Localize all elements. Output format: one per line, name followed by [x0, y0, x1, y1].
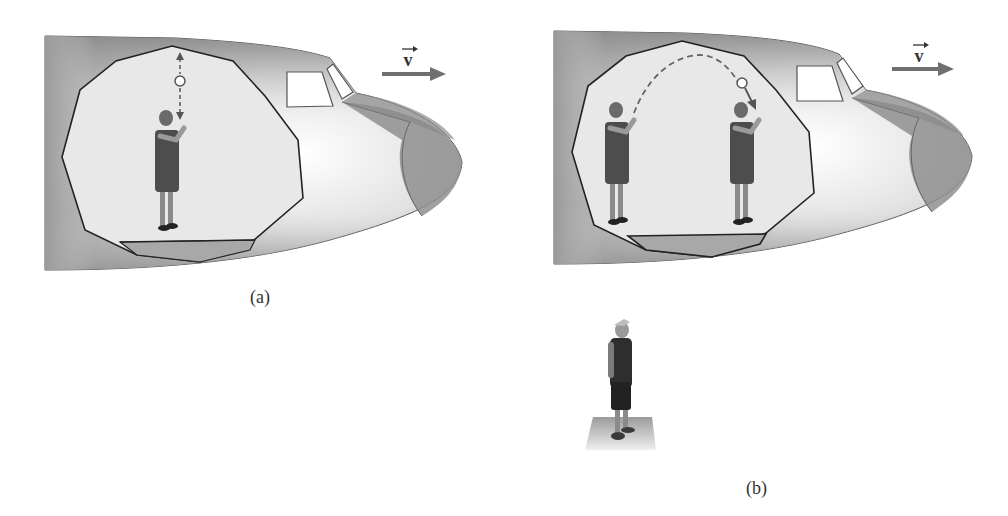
velocity-arrow-a: v — [382, 46, 446, 81]
panel-a: v (a) — [0, 0, 504, 310]
observer-illustration — [580, 310, 670, 460]
svg-text:v: v — [404, 50, 413, 70]
panel-b: v — [504, 0, 1008, 310]
velocity-arrow-b: v — [892, 42, 954, 76]
caption-a: (a) — [250, 287, 270, 308]
airplane-b-illustration: v — [504, 0, 1008, 310]
svg-text:v: v — [915, 46, 924, 66]
ball — [737, 78, 747, 88]
airplane-a-illustration: v — [0, 0, 504, 310]
ground-observer — [580, 310, 670, 460]
ball — [175, 76, 185, 86]
caption-b: (b) — [746, 478, 767, 499]
